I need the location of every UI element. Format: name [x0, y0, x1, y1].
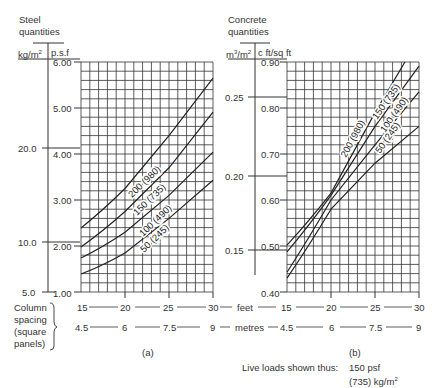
- a-x-20: 20: [120, 302, 131, 313]
- concrete-unit-m3: m3/m2: [226, 47, 251, 60]
- a-tick-2: 2.00: [53, 241, 72, 252]
- b-m-6: 6: [329, 322, 334, 333]
- a-m-45: 4.5: [75, 322, 88, 333]
- concrete-unit-sup2: 2: [248, 49, 251, 55]
- b-m-75: 7.5: [369, 322, 382, 333]
- axis-a: [18, 43, 213, 298]
- brace: [50, 303, 57, 350]
- b-tick-060: 0.60: [261, 195, 280, 206]
- b-m3-020: 0.20: [225, 171, 244, 182]
- legend-value-kg-text: (735) kg/m: [349, 376, 394, 387]
- b-m3-015: 0.15: [225, 245, 244, 256]
- b-tick-040: 0.40: [261, 288, 280, 299]
- concrete-title-line1: Concrete: [228, 14, 267, 25]
- steel-unit-kg-text: kg/m: [18, 49, 39, 60]
- b-tick-080: 0.80: [261, 103, 280, 114]
- caption-a: (a): [142, 347, 154, 358]
- axis-b: [228, 43, 419, 298]
- steel-unit-kg-sup: 2: [39, 49, 42, 55]
- curve-b-100: [287, 92, 419, 272]
- concrete-unit-per-m: /m: [237, 49, 248, 60]
- curve-b-150: [287, 66, 419, 252]
- b-tick-070: 0.70: [261, 149, 280, 160]
- legend-value-kg: (735) kg/m2: [349, 374, 398, 387]
- a-tick-1: 1.00: [53, 288, 72, 299]
- column-spacing-2: spacing: [14, 314, 47, 325]
- a-kg-20: 20.0: [18, 143, 37, 154]
- metres-label: metres: [235, 322, 264, 333]
- concrete-title-line2: quantities: [228, 26, 269, 37]
- a-tick-5: 5.00: [53, 103, 72, 114]
- b-x-25: 25: [370, 302, 381, 313]
- b-x-20: 20: [326, 302, 337, 313]
- a-kg-5: 5.0: [22, 287, 35, 298]
- a-tick-3: 3.00: [53, 195, 72, 206]
- legend-value-kg-sup: 2: [394, 376, 397, 382]
- b-x-30: 30: [414, 302, 425, 313]
- a-tick-6: 6.00: [53, 57, 72, 68]
- b-m-45: 4.5: [280, 322, 293, 333]
- b-tick-050: 0.50: [261, 241, 280, 252]
- feet-label: feet: [237, 302, 253, 313]
- a-kg-10: 10.0: [18, 237, 37, 248]
- steel-title-line1: Steel: [19, 14, 41, 25]
- steel-unit-kg: kg/m2: [18, 47, 42, 60]
- a-m-6: 6: [122, 322, 127, 333]
- column-spacing-4: panels): [14, 338, 45, 349]
- a-x-30: 30: [208, 302, 219, 313]
- legend-label: Live loads shown thus:: [242, 362, 338, 373]
- b-x-15: 15: [281, 302, 292, 313]
- caption-b: (b): [349, 347, 361, 358]
- legend-value-psf: 150 psf: [349, 362, 380, 373]
- steel-title-line2: quantities: [19, 26, 60, 37]
- b-m-9: 9: [416, 322, 421, 333]
- a-m-9: 9: [210, 322, 215, 333]
- a-x-15: 15: [77, 302, 88, 313]
- a-m-75: 7.5: [163, 322, 176, 333]
- concrete-unit-m: m: [226, 49, 234, 60]
- b-m3-025: 0.25: [225, 92, 244, 103]
- column-spacing-3: (square: [14, 326, 46, 337]
- a-tick-4: 4.00: [53, 149, 72, 160]
- b-tick-090: 0.90: [261, 57, 280, 68]
- a-x-25: 25: [163, 302, 174, 313]
- column-spacing-1: Column: [14, 302, 47, 313]
